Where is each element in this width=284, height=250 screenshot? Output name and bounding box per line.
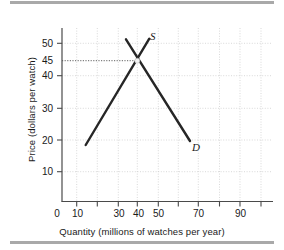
y-tick-label-30: 30 bbox=[42, 103, 54, 114]
y-tick-label-10: 10 bbox=[42, 166, 54, 177]
x-tick-label-10: 10 bbox=[72, 208, 84, 219]
equilibrium-point-marker bbox=[135, 58, 140, 63]
demand-curve-label: D bbox=[191, 141, 200, 153]
x-tick-label-70: 70 bbox=[193, 208, 205, 219]
x-tick-marks bbox=[77, 202, 261, 207]
y-tick-label-20: 20 bbox=[42, 135, 54, 146]
chart-canvas: 50 45 40 30 20 10 0 10 30 40 50 70 90 S … bbox=[0, 0, 284, 250]
x-tick-label-40: 40 bbox=[133, 208, 145, 219]
y-axis-title: Price (dollars per watch) bbox=[26, 35, 37, 185]
y-tick-label-50: 50 bbox=[42, 38, 54, 49]
x-tick-label-90: 90 bbox=[235, 208, 247, 219]
figure-container: 50 45 40 30 20 10 0 10 30 40 50 70 90 S … bbox=[0, 0, 284, 250]
y-tick-label-45: 45 bbox=[42, 55, 54, 66]
supply-curve bbox=[86, 39, 150, 145]
x-tick-label-50: 50 bbox=[153, 208, 165, 219]
x-axis-title: Quantity (millions of watches per year) bbox=[0, 226, 284, 237]
x-tick-label-30: 30 bbox=[113, 208, 125, 219]
supply-curve-label: S bbox=[150, 30, 156, 42]
y-tick-marks bbox=[57, 43, 62, 171]
y-tick-label-40: 40 bbox=[42, 70, 54, 81]
supply-demand-chart: 50 45 40 30 20 10 0 10 30 40 50 70 90 S … bbox=[0, 0, 284, 250]
y-gridlines bbox=[62, 43, 272, 171]
x-tick-label-0: 0 bbox=[54, 208, 60, 219]
